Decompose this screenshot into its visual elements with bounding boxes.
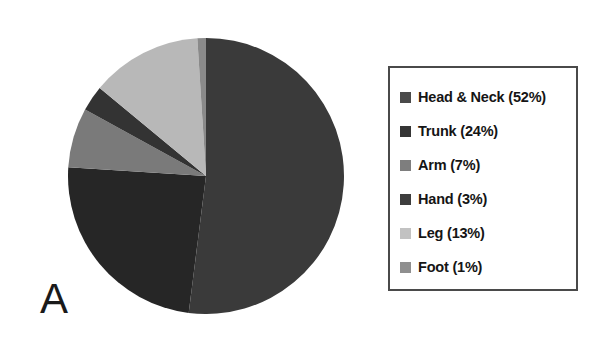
legend-item-label: Foot (1%) xyxy=(418,259,482,275)
legend-item-label: Leg (13%) xyxy=(418,225,485,241)
legend-swatch-icon xyxy=(400,126,411,137)
legend-swatch-icon xyxy=(400,194,411,205)
legend-swatch-icon xyxy=(400,92,411,103)
legend-item: Trunk (24%) xyxy=(400,114,576,148)
pie-slice xyxy=(189,38,344,314)
legend-swatch-icon xyxy=(400,262,411,273)
legend-swatch-icon xyxy=(400,160,411,171)
legend-item: Leg (13%) xyxy=(400,216,576,250)
legend-item: Foot (1%) xyxy=(400,250,576,284)
panel-label: A xyxy=(40,278,68,320)
legend-item: Hand (3%) xyxy=(400,182,576,216)
pie-chart xyxy=(68,38,344,314)
legend-item-label: Hand (3%) xyxy=(418,191,487,207)
pie-chart-svg xyxy=(68,38,344,314)
pie-slice-group xyxy=(68,38,344,314)
legend-item-label: Head & Neck (52%) xyxy=(418,89,546,105)
figure-panel: A Head & Neck (52%) Trunk (24%) Arm (7%)… xyxy=(0,0,605,350)
pie-slice xyxy=(68,167,206,313)
chart-legend: Head & Neck (52%) Trunk (24%) Arm (7%) H… xyxy=(388,66,578,291)
legend-item: Head & Neck (52%) xyxy=(400,80,576,114)
legend-swatch-icon xyxy=(400,228,411,239)
legend-item-label: Arm (7%) xyxy=(418,157,480,173)
legend-item-label: Trunk (24%) xyxy=(418,123,498,139)
legend-item: Arm (7%) xyxy=(400,148,576,182)
